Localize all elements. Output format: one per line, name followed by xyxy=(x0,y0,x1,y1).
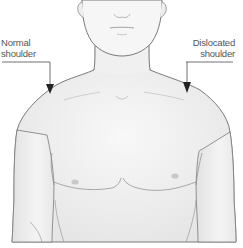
dislocated-label-line2: shoulder xyxy=(193,49,235,60)
dislocated-label-line1: Dislocated xyxy=(193,38,235,49)
left-arm xyxy=(12,130,54,242)
normal-shoulder-label: Normal shoulder xyxy=(1,38,36,59)
normal-label-line2: shoulder xyxy=(1,49,36,60)
normal-shoulder-pointer xyxy=(2,62,54,94)
dislocated-shoulder-label: Dislocated shoulder xyxy=(193,38,235,59)
normal-label-line1: Normal xyxy=(1,38,36,49)
face xyxy=(78,0,167,56)
